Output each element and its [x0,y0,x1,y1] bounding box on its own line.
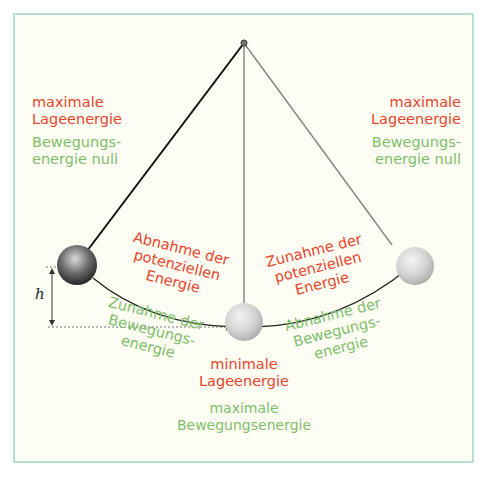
bottom-min-potential: minimale Lageenergie [174,356,314,390]
ball-left [57,245,97,285]
bottom-max-kinetic: maximale Bewegungsenergie [144,400,344,434]
ball-center [225,303,263,341]
left-max-potential: maximale Lageenergie [32,94,122,128]
ball-right [396,247,434,285]
right-zero-kinetic: Bewegungs- energie null [355,134,461,168]
height-label: h [35,286,45,303]
left-zero-kinetic: Bewegungs- energie null [32,134,121,168]
right-max-potential: maximale Lageenergie [355,94,461,128]
pivot-point [241,40,247,46]
